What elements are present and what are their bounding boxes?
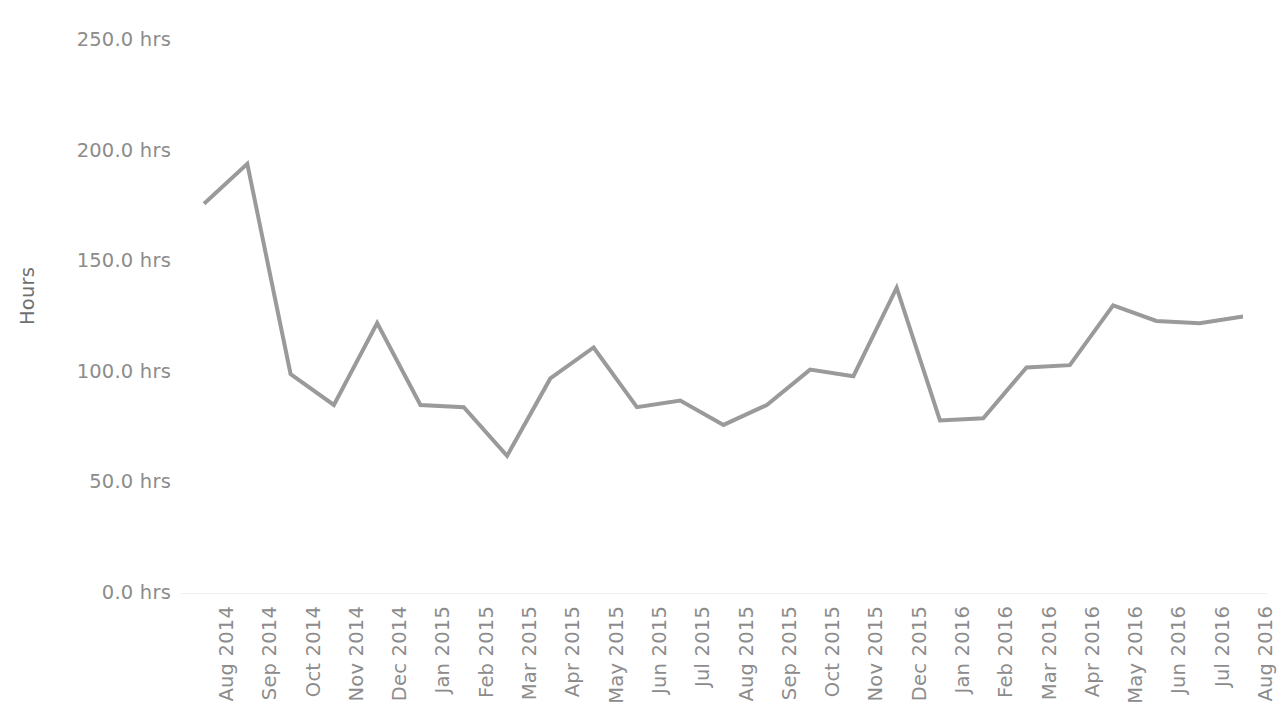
x-axis-tick-label: Jun 2016 [1163, 606, 1183, 694]
x-axis-tick-label: Sep 2015 [774, 606, 794, 700]
y-axis-tick-label: 150.0 hrs [0, 251, 171, 271]
data-line-svg [181, 20, 1266, 598]
x-axis-tick-label: Aug 2016 [1250, 606, 1270, 702]
x-axis-tick-label: Oct 2015 [817, 606, 837, 697]
x-axis-tick-labels: Aug 2014Sep 2014Oct 2014Nov 2014Dec 2014… [0, 598, 1285, 723]
x-axis-tick-label: Mar 2016 [1034, 606, 1054, 700]
y-axis-tick-label: 100.0 hrs [0, 362, 171, 382]
x-axis-tick-label: Feb 2015 [471, 606, 491, 698]
line-chart: Hours 0.0 hrs50.0 hrs100.0 hrs150.0 hrs2… [0, 0, 1285, 723]
y-axis-tick-label: 50.0 hrs [0, 472, 171, 492]
x-axis-tick-label: Jun 2015 [644, 606, 664, 694]
x-axis-tick-label: Nov 2014 [341, 606, 361, 701]
x-axis-tick-label: Aug 2014 [211, 606, 231, 702]
x-axis-baseline [181, 593, 1267, 594]
x-axis-tick-label: May 2016 [1120, 606, 1140, 704]
y-axis-tick-label: 200.0 hrs [0, 141, 171, 161]
y-axis-tick-label: 250.0 hrs [0, 30, 171, 50]
plot-area [181, 20, 1266, 598]
x-axis-tick-label: Jan 2015 [427, 606, 447, 693]
x-axis-tick-label: Apr 2015 [557, 606, 577, 697]
x-axis-tick-label: Mar 2015 [514, 606, 534, 700]
x-axis-tick-label: Sep 2014 [254, 606, 274, 700]
x-axis-tick-label: Aug 2015 [731, 606, 751, 702]
x-axis-tick-label: Dec 2014 [384, 606, 404, 701]
x-axis-tick-label: Jul 2016 [1207, 606, 1227, 687]
x-axis-tick-label: Jul 2015 [687, 606, 707, 687]
x-axis-tick-label: Oct 2014 [298, 606, 318, 697]
x-axis-tick-label: Jan 2016 [947, 606, 967, 693]
series-hours-line [204, 164, 1243, 456]
x-axis-tick-label: Apr 2016 [1077, 606, 1097, 697]
x-axis-tick-label: Feb 2016 [990, 606, 1010, 698]
x-axis-tick-label: Dec 2015 [904, 606, 924, 701]
x-axis-tick-label: May 2015 [601, 606, 621, 704]
x-axis-tick-label: Nov 2015 [860, 606, 880, 701]
